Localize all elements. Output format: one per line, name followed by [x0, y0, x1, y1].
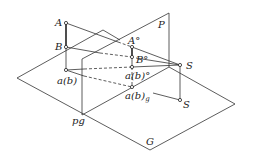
- label-ab: a(b): [57, 75, 77, 86]
- perspective-diagram: A B a(b) A° B° a(b)° a(b)g S S P G pg: [0, 0, 253, 160]
- label-ab-g-main: a(b): [125, 90, 145, 101]
- point-s-lower: [178, 98, 181, 101]
- point-b: [64, 45, 67, 48]
- point-ab-deg: [130, 65, 133, 68]
- labels: A B a(b) A° B° a(b)° a(b)g S S P G pg: [54, 17, 193, 147]
- point-ab-g: [130, 85, 133, 88]
- label-pg: pg: [72, 115, 85, 126]
- point-a: [64, 21, 67, 24]
- point-s-upper: [178, 63, 181, 66]
- label-b: B: [54, 41, 62, 52]
- label-a: A: [54, 17, 62, 28]
- label-ab-deg: a(b)°: [125, 70, 150, 81]
- label-s-upper: S: [186, 60, 193, 71]
- label-ab-g: a(b)g: [125, 90, 150, 103]
- label-a-deg: A°: [127, 35, 140, 46]
- label-b-deg: B°: [135, 54, 148, 65]
- point-b-deg: [130, 55, 133, 58]
- label-s-lower: S: [183, 99, 190, 110]
- visual-rays: [66, 23, 180, 100]
- label-ab-g-sub: g: [145, 95, 150, 103]
- label-g: G: [146, 136, 154, 147]
- point-ab: [64, 68, 67, 71]
- label-p: P: [157, 19, 165, 30]
